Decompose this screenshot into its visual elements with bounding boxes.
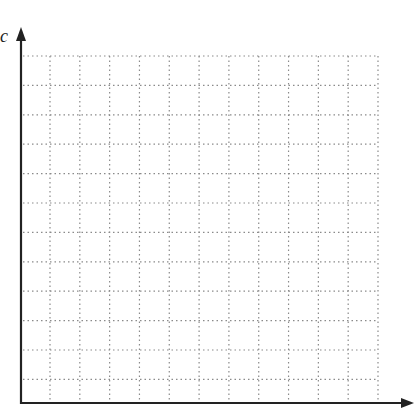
blank-graph-grid: c [0,0,414,411]
x-axis-arrow-icon [401,398,414,408]
y-axis-arrow-icon [16,27,26,41]
y-axis-label: c [0,26,8,47]
grid-svg [0,0,414,411]
dotted-grid [23,56,378,402]
